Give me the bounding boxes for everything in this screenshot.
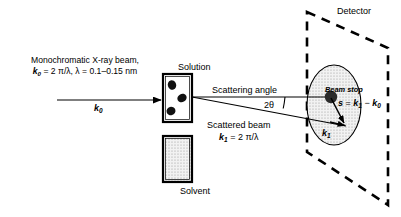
scattering-angle-label: Scattering angle bbox=[212, 85, 277, 95]
minus-sign: − bbox=[362, 98, 372, 108]
two-theta-arc bbox=[283, 97, 285, 109]
beam-stop-label: Beam stop bbox=[325, 86, 363, 95]
k0-arrow-subscript: 0 bbox=[99, 107, 103, 114]
k1-expression: = 2 π/λ bbox=[228, 132, 259, 142]
scattering-vector-equation: s = k1 − k0 bbox=[338, 98, 381, 109]
incident-beam-caption: Monochromatic X-ray beam, k0 = 2 π/λ, λ … bbox=[10, 56, 160, 77]
k1-equation-label: k1 = 2 π/λ bbox=[219, 132, 259, 143]
k0-arrow-label: k0 bbox=[94, 103, 103, 114]
solvent-cell bbox=[163, 136, 192, 182]
equals-sign: = bbox=[343, 98, 353, 108]
scattered-beam-label: Scattered beam bbox=[207, 120, 271, 130]
solvent-label: Solvent bbox=[180, 186, 210, 196]
solution-label: Solution bbox=[178, 62, 211, 72]
detector-label: Detector bbox=[337, 6, 371, 16]
k1-vector-label: k1 bbox=[322, 128, 331, 139]
incident-beam-caption-line1: Monochromatic X-ray beam, bbox=[31, 55, 139, 65]
two-theta-label: 2θ bbox=[264, 100, 274, 110]
k0-eq-subscript: 0 bbox=[377, 102, 381, 109]
solution-cell bbox=[163, 74, 192, 122]
incident-beam-caption-line2: k0 = 2 π/λ, λ = 0.1–0.15 nm bbox=[10, 67, 160, 77]
k1-vector-subscript: 1 bbox=[327, 132, 331, 139]
k0-expression: = 2 π/λ, λ = 0.1–0.15 nm bbox=[41, 66, 137, 76]
